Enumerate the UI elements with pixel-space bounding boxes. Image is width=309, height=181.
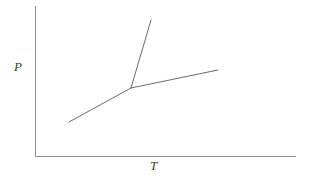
- chart-background: [0, 0, 309, 181]
- x-axis-label: T: [150, 159, 157, 172]
- y-axis-label: P: [14, 60, 22, 73]
- plot-area: [0, 0, 309, 181]
- phase-diagram-figure: P T: [0, 0, 309, 181]
